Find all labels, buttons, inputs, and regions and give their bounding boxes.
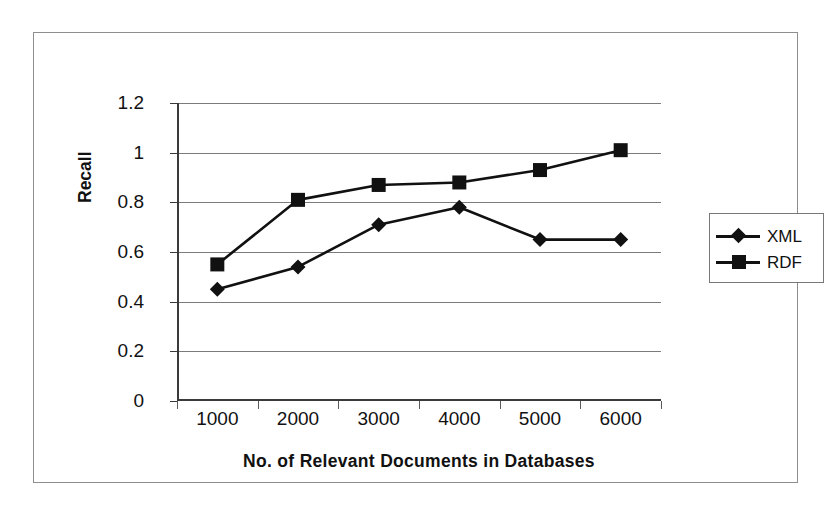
y-axis-tick-mark [170,302,177,303]
data-point-xml [210,282,225,297]
x-axis-tick-mark [500,401,501,409]
series-line-xml [217,207,620,289]
y-axis-tick-mark [170,252,177,253]
plot-area [177,103,661,401]
x-axis-tick-label: 5000 [500,409,580,428]
square-marker-icon [716,255,760,269]
data-point-xml [291,259,306,274]
series-line-rdf [217,150,620,264]
x-axis-tick-label: 4000 [419,409,499,428]
data-point-xml [452,200,467,215]
data-point-xml [613,232,628,247]
chart-legend: XML RDF [709,213,824,283]
legend-label-xml: XML [767,228,802,245]
y-axis-tick-mark [170,153,177,154]
data-point-rdf [210,257,224,271]
y-axis-tick-label: 0 [76,391,144,410]
data-point-rdf [372,178,386,192]
x-axis-tick-mark [419,401,420,409]
y-axis-tick-label: 0.6 [76,242,144,261]
y-axis-tick-mark [170,103,177,104]
x-axis-tick-mark [177,401,178,409]
diamond-marker-icon [716,229,760,243]
x-axis-tick-label: 1000 [177,409,257,428]
x-axis-tick-mark [661,401,662,409]
chart-frame: Recall 00.20.40.60.811.2 100020003000400… [33,32,798,483]
legend-item-rdf: RDF [710,249,823,275]
y-axis-tick-label: 1 [76,143,144,162]
x-axis-tick-label: 6000 [581,409,661,428]
data-point-xml [533,232,548,247]
data-point-rdf [452,175,466,189]
x-axis-tick-mark [258,401,259,409]
x-axis-tick-mark [580,401,581,409]
x-axis-tick-label: 3000 [339,409,419,428]
y-axis-tick-label: 0.8 [76,192,144,211]
x-axis-tick-label: 2000 [258,409,338,428]
legend-label-rdf: RDF [767,254,802,271]
x-axis-title: No. of Relevant Documents in Databases [177,451,661,472]
data-point-rdf [614,143,628,157]
data-series-layer [177,103,661,401]
x-axis-tick-mark [338,401,339,409]
y-axis-tick-mark [170,202,177,203]
y-axis-tick-label: 1.2 [76,93,144,112]
data-point-rdf [291,193,305,207]
y-axis-tick-label: 0.2 [76,341,144,360]
data-point-xml [371,217,386,232]
data-point-rdf [533,163,547,177]
y-axis-tick-mark [170,401,177,402]
legend-item-xml: XML [710,223,823,249]
y-axis-tick-label: 0.4 [76,292,144,311]
y-axis-tick-mark [170,351,177,352]
